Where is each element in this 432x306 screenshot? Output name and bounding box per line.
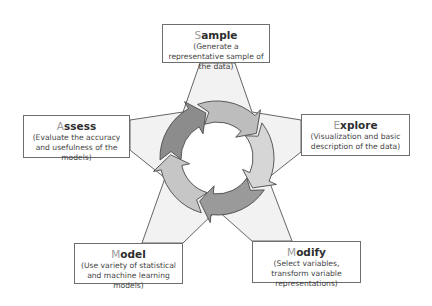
stage-description-explore: (Visualization and basic description of … xyxy=(302,132,409,152)
stage-box-assess: Assess (Evaluate the accuracy and useful… xyxy=(23,115,130,158)
stage-description-sample: (Generate a representative sample of the… xyxy=(163,42,269,72)
stage-title-model: Model xyxy=(75,246,182,261)
stage-title-assess: Assess xyxy=(24,118,129,133)
stage-title-modify: Modify xyxy=(253,244,360,259)
stage-box-modify: Modify (Select variables, transform vari… xyxy=(252,241,361,283)
stage-description-model: (Use variety of statistical and machine … xyxy=(75,261,182,291)
stage-title-explore: Explore xyxy=(302,117,409,132)
stage-box-explore: Explore (Visualization and basic descrip… xyxy=(301,114,410,156)
stage-title-sample: Sample xyxy=(163,27,269,42)
stage-description-assess: (Evaluate the accuracy and usefulness of… xyxy=(24,133,129,163)
stage-description-modify: (Select variables, transform variable re… xyxy=(253,259,360,289)
stage-box-sample: Sample (Generate a representative sample… xyxy=(162,24,270,63)
stage-box-model: Model (Use variety of statistical and ma… xyxy=(74,243,183,284)
